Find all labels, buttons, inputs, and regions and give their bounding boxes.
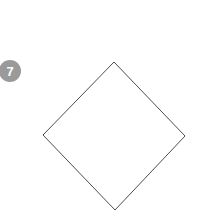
badge-number-label: 7	[6, 64, 13, 77]
annotation-canvas: 7	[0, 0, 206, 224]
numbered-circle-badge[interactable]: 7	[0, 60, 21, 82]
diamond-shape[interactable]	[43, 62, 185, 210]
shape-layer	[0, 0, 206, 224]
